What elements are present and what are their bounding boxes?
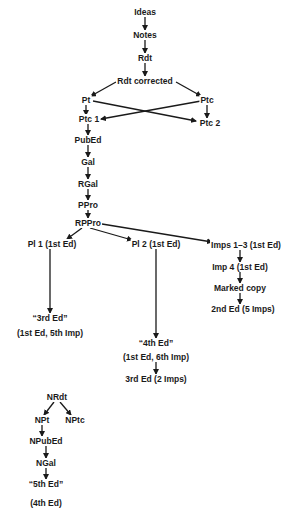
node-ed2: 2nd Ed (5 Imps) [210,304,275,314]
node-ed4q: “4th Ed” [138,338,174,348]
node-marked: Marked copy [213,283,267,293]
node-ed5q: “5th Ed” [28,479,64,489]
arrow-edge [60,402,71,415]
node-rdt-corrected: Rdt corrected [116,76,173,86]
node-rdt: Rdt [137,53,153,63]
node-nptc: NPtc [64,415,85,425]
node-nrdt: NRdt [46,392,68,402]
node-notes: Notes [132,30,158,40]
node-ed3: 3rd Ed (2 Imps) [124,374,187,384]
node-npt: NPt [34,415,51,425]
edition-history-diagram: IdeasNotesRdtRdt correctedPtPtcPtc 1Ptc … [0,0,294,523]
arrow-edge [44,402,54,415]
arrow-edge [101,101,201,119]
node-rppro: RPPro [74,218,102,228]
node-ngal: NGal [35,458,57,468]
node-ptc1: Ptc 1 [78,114,100,124]
node-pt: Pt [81,95,92,105]
arrow-edge [67,228,82,239]
node-ed3q: “3rd Ed” [32,313,69,323]
node-npubed: NPubEd [28,436,63,446]
arrow-edge [91,82,116,96]
node-imps13: Imps 1–3 (1st Ed) [210,240,282,250]
node-ptc2: Ptc 2 [199,118,221,128]
arrow-edge [90,228,132,240]
node-ideas: Ideas [133,7,157,17]
node-ptc: Ptc [199,95,214,105]
node-pl1: Pl 1 (1st Ed) [27,239,78,249]
node-imp4: Imp 4 (1st Ed) [211,262,269,272]
node-ed4q-sub: (1st Ed, 6th Imp) [122,352,190,362]
arrow-edge [176,82,201,96]
node-ed5q-sub: (4th Ed) [29,498,63,508]
node-pubed: PubEd [74,135,103,145]
node-ed3q-sub: (1st Ed, 5th Imp) [16,328,84,338]
node-rgal: RGal [77,179,99,189]
node-ppro: PPro [77,200,99,210]
node-gal: Gal [80,157,96,167]
node-pl2: Pl 2 (1st Ed) [131,239,182,249]
